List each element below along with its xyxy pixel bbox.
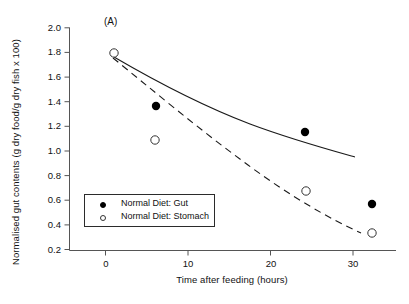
data-point-gut (301, 128, 309, 136)
y-tick-label: 1.0 (33, 145, 61, 156)
legend-item-stomach: Normal Diet: Stomach (85, 210, 216, 224)
data-point-gut (152, 102, 160, 110)
y-tick-label: 0.4 (33, 219, 61, 230)
y-tick-label: 1.8 (33, 46, 61, 57)
data-point-stomach (110, 49, 118, 57)
panel-letter: (A) (104, 16, 117, 27)
chart-figure: (A) 2.0 1.8 1.6 1.4 1.2 1.0 0.8 0.6 0.4 … (0, 0, 409, 304)
y-tick-label: 1.6 (33, 71, 61, 82)
y-tick-label: 0.8 (33, 170, 61, 181)
y-tick-label: 1.2 (33, 120, 61, 131)
y-tick-label: 2.0 (33, 22, 61, 33)
legend-label: Normal Diet: Stomach (121, 211, 209, 221)
y-axis-ticks (65, 28, 70, 250)
x-tick-label: 20 (257, 258, 285, 269)
x-axis-ticks (106, 251, 354, 256)
open-circle-icon (100, 215, 106, 221)
x-tick-label: 30 (339, 258, 367, 269)
y-tick-label: 0.6 (33, 194, 61, 205)
x-tick-label: 10 (174, 258, 202, 269)
legend: Normal Diet: Gut Normal Diet: Stomach (84, 194, 215, 227)
y-tick-label: 1.4 (33, 96, 61, 107)
fit-curve-gut (114, 57, 355, 157)
data-point-stomach (368, 229, 376, 237)
data-point-stomach (151, 136, 159, 144)
legend-label: Normal Diet: Gut (121, 198, 188, 208)
x-tick-label: 0 (92, 258, 120, 269)
y-tick-label: 0.2 (33, 244, 61, 255)
legend-item-gut: Normal Diet: Gut (85, 197, 216, 211)
data-point-gut (368, 200, 376, 208)
x-axis-title: Time after feeding (hours) (69, 274, 395, 285)
filled-circle-icon (100, 202, 106, 208)
y-axis-title: Normalised gut contents (g dry food/g dr… (8, 0, 24, 304)
data-point-stomach (302, 187, 310, 195)
series-gut-markers (152, 102, 376, 208)
